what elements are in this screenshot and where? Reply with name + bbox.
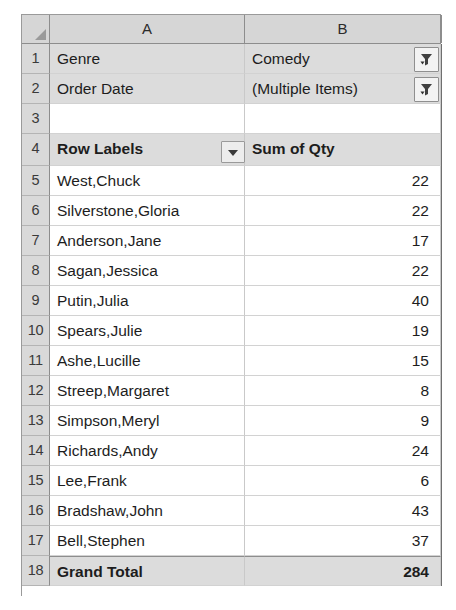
grand-total-label[interactable]: Grand Total [50,556,245,586]
table-row: 6 Silverstone,Gloria 22 [22,196,441,226]
table-row: 5 West,Chuck 22 [22,166,441,196]
row-tail [441,346,442,376]
row-number[interactable]: 12 [22,376,50,406]
filter-funnel-icon [419,52,434,67]
row-number[interactable]: 9 [22,286,50,316]
filter-funnel-icon [419,82,434,97]
row-qty[interactable]: 15 [245,346,441,376]
row-label[interactable]: Lee,Frank [50,466,245,496]
row-tail [441,286,442,316]
select-all-corner[interactable] [22,15,50,43]
row-qty[interactable]: 22 [245,256,441,286]
row-label[interactable]: Spears,Julie [50,316,245,346]
row-qty[interactable]: 40 [245,286,441,316]
row-qty[interactable]: 43 [245,496,441,526]
row-number[interactable]: 13 [22,406,50,436]
row-label[interactable]: Silverstone,Gloria [50,196,245,226]
column-header-b[interactable]: B [245,15,441,43]
row-tail [441,104,442,134]
row-number[interactable]: 10 [22,316,50,346]
row-tail [441,436,442,466]
row-qty[interactable]: 19 [245,316,441,346]
row-label[interactable]: Richards,Andy [50,436,245,466]
row-number[interactable]: 15 [22,466,50,496]
select-all-triangle-icon [35,29,46,40]
blank-cell-a[interactable] [50,104,245,134]
row-number[interactable]: 17 [22,526,50,556]
row-label[interactable]: Ashe,Lucille [50,346,245,376]
row-tail [441,526,442,556]
table-row: 16 Bradshaw,John 43 [22,496,441,526]
row-label[interactable]: West,Chuck [50,166,245,196]
row-label[interactable]: Simpson,Meryl [50,406,245,436]
row-tail [441,74,442,104]
row-number[interactable]: 8 [22,256,50,286]
row-number[interactable]: 14 [22,436,50,466]
row-qty[interactable]: 8 [245,376,441,406]
filter-button-order-date[interactable] [414,77,439,102]
row-qty[interactable]: 22 [245,196,441,226]
filter-row-genre: 1 Genre Comedy [22,44,441,74]
row-label[interactable]: Bell,Stephen [50,526,245,556]
row-qty[interactable]: 22 [245,166,441,196]
table-row: 9 Putin,Julia 40 [22,286,441,316]
row-qty[interactable]: 37 [245,526,441,556]
row-number[interactable]: 4 [22,134,50,166]
row-qty[interactable]: 17 [245,226,441,256]
row-qty[interactable]: 6 [245,466,441,496]
row-tail [441,406,442,436]
table-row: 17 Bell,Stephen 37 [22,526,441,556]
table-row: 14 Richards,Andy 24 [22,436,441,466]
row-number[interactable]: 11 [22,346,50,376]
grand-total-qty[interactable]: 284 [245,556,441,586]
row-tail [441,316,442,346]
row-number[interactable]: 18 [22,556,50,586]
table-row: 10 Spears,Julie 19 [22,316,441,346]
row-tail [441,376,442,406]
table-row: 11 Ashe,Lucille 15 [22,346,441,376]
chevron-down-icon [228,150,238,156]
row-tail [441,496,442,526]
row-tail [441,256,442,286]
row-label[interactable]: Anderson,Jane [50,226,245,256]
column-header-a[interactable]: A [50,15,245,43]
column-header-row: A B [22,15,441,44]
row-number[interactable]: 6 [22,196,50,226]
row-tail [441,134,442,166]
row-labels-dropdown-button[interactable] [221,141,245,163]
table-row: 8 Sagan,Jessica 22 [22,256,441,286]
column-header-c[interactable] [441,15,442,43]
table-row: 12 Streep,Margaret 8 [22,376,441,406]
grand-total-row: 18 Grand Total 284 [22,556,441,586]
blank-cell-b[interactable] [245,104,441,134]
row-number[interactable]: 16 [22,496,50,526]
row-label[interactable]: Streep,Margaret [50,376,245,406]
row-tail [441,44,442,74]
row-tail [441,556,442,586]
row-qty[interactable]: 9 [245,406,441,436]
table-row: 15 Lee,Frank 6 [22,466,441,496]
row-label[interactable]: Putin,Julia [50,286,245,316]
row-tail [441,166,442,196]
filter-row-order-date: 2 Order Date (Multiple Items) [22,74,441,104]
row-labels-header[interactable]: Row Labels [50,134,245,166]
blank-row: 3 [22,104,441,134]
filter-value-genre[interactable]: Comedy [245,44,441,74]
row-label[interactable]: Sagan,Jessica [50,256,245,286]
filter-field-order-date[interactable]: Order Date [50,74,245,104]
spreadsheet-grid: A B 1 Genre Comedy 2 Order Date (Multipl… [21,14,441,596]
row-number[interactable]: 5 [22,166,50,196]
row-number[interactable]: 2 [22,74,50,104]
row-tail [441,226,442,256]
table-row: 7 Anderson,Jane 17 [22,226,441,256]
row-label[interactable]: Bradshaw,John [50,496,245,526]
row-number[interactable]: 7 [22,226,50,256]
row-qty[interactable]: 24 [245,436,441,466]
row-number[interactable]: 1 [22,44,50,74]
filter-value-order-date[interactable]: (Multiple Items) [245,74,441,104]
filter-field-genre[interactable]: Genre [50,44,245,74]
sum-of-qty-header[interactable]: Sum of Qty [245,134,441,166]
table-row: 13 Simpson,Meryl 9 [22,406,441,436]
filter-button-genre[interactable] [414,47,439,72]
row-number[interactable]: 3 [22,104,50,134]
